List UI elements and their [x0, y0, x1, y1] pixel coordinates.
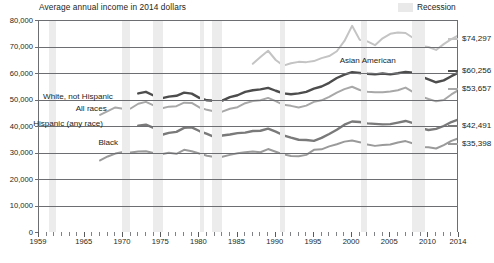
- y-axis-tick-mark: [35, 100, 38, 101]
- x-axis-tick-label: 2005: [381, 237, 398, 246]
- y-axis-tick-label: 20,000: [0, 175, 33, 184]
- end-value-label: $53,657: [462, 84, 491, 93]
- x-axis-tick-mark: [107, 232, 108, 236]
- x-axis-tick-mark: [214, 232, 215, 236]
- x-axis-tick-mark: [168, 232, 169, 236]
- gridline: [39, 206, 457, 207]
- chart-legend: Recession: [398, 2, 456, 12]
- x-axis-tick-mark: [343, 232, 344, 236]
- x-axis-tick-mark: [175, 232, 176, 236]
- end-value-label: $74,297: [462, 34, 491, 43]
- chart-title: Average annual income in 2014 dollars: [39, 2, 186, 12]
- end-label-leader: [448, 38, 458, 40]
- y-axis-tick-mark: [35, 73, 38, 74]
- x-axis-tick-mark: [328, 232, 329, 236]
- recession-swatch-icon: [398, 3, 413, 12]
- x-axis-tick-mark: [91, 232, 92, 236]
- end-label-leader: [448, 88, 458, 90]
- x-axis-tick-mark: [405, 232, 406, 236]
- series-label-white-not-hispanic: White, not Hispanic: [43, 92, 113, 101]
- end-value-label: $42,491: [462, 121, 491, 130]
- x-axis-tick-mark: [290, 232, 291, 236]
- x-axis-tick-label: 1980: [190, 237, 207, 246]
- x-axis-tick-mark: [53, 232, 54, 236]
- x-axis-tick-label: 1995: [304, 237, 321, 246]
- y-axis-tick-label: 30,000: [0, 148, 33, 157]
- x-axis-tick-mark: [435, 232, 436, 236]
- x-axis-tick-mark: [130, 232, 131, 236]
- x-axis-tick-label: 1965: [75, 237, 92, 246]
- x-axis-tick-label: 1975: [152, 237, 169, 246]
- x-axis-tick-label: 1959: [30, 237, 47, 246]
- y-axis-tick-label: 40,000: [0, 122, 33, 131]
- x-axis-tick-mark: [69, 232, 70, 236]
- y-axis-tick-label: 10,000: [0, 201, 33, 210]
- x-axis-tick-mark: [61, 232, 62, 236]
- x-axis-tick-mark: [359, 232, 360, 236]
- x-axis-tick-mark: [412, 232, 413, 236]
- x-axis-tick-mark: [114, 232, 115, 236]
- x-axis-tick-mark: [137, 232, 138, 236]
- y-axis-tick-label: 60,000: [0, 69, 33, 78]
- x-axis-tick-mark: [267, 232, 268, 236]
- x-axis-tick-mark: [420, 232, 421, 236]
- gridline: [39, 153, 457, 154]
- y-axis-tick-mark: [35, 47, 38, 48]
- x-axis-tick-mark: [191, 232, 192, 236]
- x-axis-tick-mark: [382, 232, 383, 236]
- end-value-label: $60,256: [462, 66, 491, 75]
- series-label-black: Black: [98, 138, 118, 147]
- x-axis-tick-mark: [336, 232, 337, 236]
- x-axis-tick-label: 2010: [419, 237, 436, 246]
- y-axis-tick-mark: [35, 20, 38, 21]
- x-axis-tick-label: 1985: [228, 237, 245, 246]
- y-axis-tick-label: 0: [0, 228, 33, 237]
- x-axis-tick-label: 2000: [343, 237, 360, 246]
- x-axis-tick-mark: [443, 232, 444, 236]
- x-axis-tick-mark: [366, 232, 367, 236]
- series-label-asian-american: Asian American: [340, 56, 396, 65]
- end-label-leader: [448, 143, 458, 145]
- x-axis-tick-mark: [145, 232, 146, 236]
- gridline: [39, 47, 457, 48]
- x-axis-tick-mark: [305, 232, 306, 236]
- x-axis-tick-mark: [252, 232, 253, 236]
- x-axis-tick-mark: [183, 232, 184, 236]
- series-line: [138, 72, 457, 101]
- x-axis-tick-mark: [282, 232, 283, 236]
- x-axis-tick-mark: [206, 232, 207, 236]
- y-axis-tick-label: 70,000: [0, 42, 33, 51]
- x-axis-tick-mark: [397, 232, 398, 236]
- y-axis-tick-label: 80,000: [0, 16, 33, 25]
- end-value-label: $35,398: [462, 139, 491, 148]
- x-axis-tick-mark: [153, 232, 154, 236]
- x-axis-tick-mark: [229, 232, 230, 236]
- x-axis-tick-mark: [298, 232, 299, 236]
- x-axis-tick-label: 1990: [266, 237, 283, 246]
- y-axis-tick-mark: [35, 206, 38, 207]
- x-axis-tick-mark: [321, 232, 322, 236]
- y-axis-tick-mark: [35, 153, 38, 154]
- x-axis-tick-mark: [374, 232, 375, 236]
- gridline: [39, 20, 457, 21]
- chart-root: Average annual income in 2014 dollars Re…: [0, 0, 494, 263]
- x-axis-tick-mark: [450, 232, 451, 236]
- end-label-leader: [448, 125, 458, 127]
- x-axis-tick-mark: [221, 232, 222, 236]
- x-axis-tick-mark: [244, 232, 245, 236]
- series-line: [138, 119, 457, 140]
- series-label-hispanic-any-race: Hispanic (any race): [33, 119, 103, 128]
- gridline: [39, 73, 457, 74]
- x-axis-tick-label: 2014: [450, 237, 467, 246]
- x-axis-tick-mark: [76, 232, 77, 236]
- legend-label-recession: Recession: [417, 2, 456, 12]
- x-axis-tick-label: 1970: [114, 237, 131, 246]
- y-axis-tick-mark: [35, 179, 38, 180]
- x-axis-tick-mark: [259, 232, 260, 236]
- y-axis-tick-label: 50,000: [0, 95, 33, 104]
- series-label-all-races: All races: [76, 104, 107, 113]
- gridline: [39, 179, 457, 180]
- end-label-leader: [448, 70, 458, 72]
- x-axis-tick-mark: [99, 232, 100, 236]
- x-axis-tick-mark: [46, 232, 47, 236]
